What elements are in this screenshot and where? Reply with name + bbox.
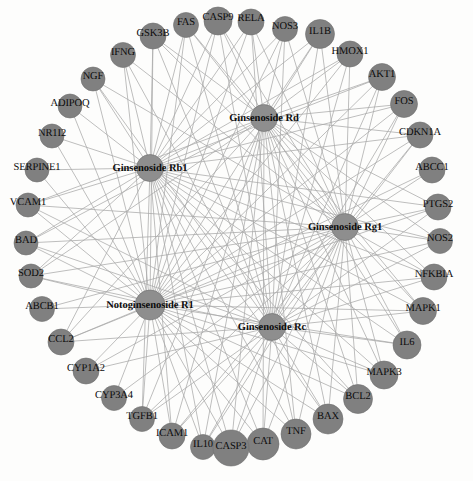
network-edge — [26, 227, 345, 243]
network-edge — [272, 54, 350, 327]
network-edge — [70, 106, 150, 305]
target-gene-node[interactable] — [102, 386, 127, 411]
target-gene-node[interactable] — [191, 435, 216, 460]
target-gene-node[interactable] — [81, 67, 105, 91]
target-gene-node[interactable] — [407, 122, 433, 148]
network-edge — [150, 34, 320, 168]
target-gene-node[interactable] — [306, 20, 335, 49]
target-gene-node[interactable] — [425, 194, 451, 220]
compound-node[interactable] — [332, 214, 359, 241]
target-gene-node[interactable] — [140, 23, 166, 49]
network-edge — [150, 135, 420, 305]
target-gene-node[interactable] — [337, 41, 363, 67]
network-edge — [272, 311, 423, 327]
compound-node[interactable] — [135, 290, 165, 320]
network-edge — [61, 227, 345, 342]
target-gene-node[interactable] — [273, 17, 298, 42]
compound-node[interactable] — [259, 314, 286, 341]
network-diagram: CASP9RELAFASNOS3GSK3BIL1BIFNGHMOX1NGFAKT… — [0, 0, 473, 481]
network-edge — [150, 305, 328, 419]
network-edge — [345, 170, 432, 227]
target-gene-node[interactable] — [391, 91, 418, 118]
node-layer — [14, 7, 453, 466]
target-gene-node[interactable] — [213, 430, 249, 466]
network-edge — [150, 22, 251, 305]
network-edge — [150, 168, 440, 241]
network-edge — [52, 136, 150, 168]
target-gene-node[interactable] — [204, 7, 232, 35]
target-gene-node[interactable] — [344, 385, 373, 414]
target-gene-node[interactable] — [130, 407, 155, 432]
network-edge — [37, 168, 150, 170]
target-gene-node[interactable] — [30, 297, 55, 322]
target-gene-node[interactable] — [428, 229, 453, 254]
network-edge — [150, 305, 358, 399]
network-edge — [272, 327, 296, 434]
target-gene-node[interactable] — [247, 428, 279, 460]
target-gene-node[interactable] — [419, 157, 445, 183]
target-gene-node[interactable] — [14, 231, 38, 255]
network-edge — [123, 55, 150, 168]
network-graph-svg — [0, 0, 473, 481]
target-gene-node[interactable] — [16, 193, 40, 217]
target-gene-node[interactable] — [48, 329, 74, 355]
target-gene-node[interactable] — [370, 361, 398, 389]
target-gene-node[interactable] — [111, 43, 136, 68]
target-gene-node[interactable] — [313, 404, 343, 434]
network-edge — [263, 327, 272, 444]
network-edge — [93, 79, 150, 168]
target-gene-node[interactable] — [159, 423, 185, 449]
target-gene-node[interactable] — [25, 158, 49, 182]
network-edge — [345, 227, 423, 311]
target-gene-node[interactable] — [40, 124, 64, 148]
target-gene-node[interactable] — [281, 419, 311, 449]
target-gene-node[interactable] — [73, 358, 99, 384]
target-gene-node[interactable] — [238, 9, 264, 35]
compound-node[interactable] — [251, 105, 278, 132]
network-edge — [42, 305, 150, 309]
target-gene-node[interactable] — [19, 264, 43, 288]
network-edge — [345, 54, 350, 227]
network-edge — [70, 106, 150, 168]
target-gene-node[interactable] — [174, 13, 199, 38]
compound-node[interactable] — [137, 155, 164, 182]
target-gene-node[interactable] — [421, 264, 447, 290]
network-edge — [52, 136, 150, 305]
target-gene-node[interactable] — [410, 298, 437, 325]
network-edge — [272, 34, 320, 327]
network-edge — [42, 227, 345, 309]
target-gene-node[interactable] — [369, 64, 396, 91]
target-gene-node[interactable] — [58, 94, 82, 118]
network-edge — [272, 29, 285, 327]
target-gene-node[interactable] — [393, 331, 421, 359]
